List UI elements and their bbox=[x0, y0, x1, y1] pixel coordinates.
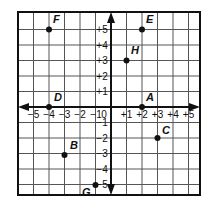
point-d bbox=[46, 104, 52, 110]
x-tick-label: +1 bbox=[121, 109, 133, 120]
point-f bbox=[46, 27, 52, 33]
coordinate-plane: −5 −4 −3 −2 −1 0 +1 +2 +3 +4 +5 +5 +4 +3… bbox=[0, 0, 211, 216]
point-a bbox=[139, 104, 145, 110]
y-tick-label: +4 bbox=[96, 40, 108, 51]
y-tick-label: +5 bbox=[96, 24, 108, 35]
y-tick-label: −4 bbox=[96, 164, 108, 175]
point-g bbox=[93, 182, 99, 188]
point-b bbox=[62, 152, 68, 158]
y-tick-label: −1 bbox=[96, 117, 108, 128]
point-label-f: F bbox=[53, 13, 60, 25]
point-label-h: H bbox=[131, 44, 140, 56]
point-e bbox=[139, 27, 145, 33]
arrow-down-icon bbox=[107, 184, 115, 195]
point-label-d: D bbox=[54, 91, 62, 103]
point-c bbox=[155, 135, 161, 141]
y-axis bbox=[107, 12, 115, 195]
grid bbox=[18, 12, 200, 195]
y-tick-label: +1 bbox=[96, 86, 108, 97]
y-tick-label: −3 bbox=[96, 148, 108, 159]
point-label-g: G bbox=[82, 186, 91, 198]
x-tick-label: +3 bbox=[152, 109, 164, 120]
x-tick-label: −4 bbox=[43, 109, 55, 120]
point-label-c: C bbox=[162, 124, 171, 136]
x-tick-label: −5 bbox=[28, 109, 40, 120]
x-tick-label: +4 bbox=[167, 109, 179, 120]
point-h bbox=[124, 58, 130, 64]
point-label-a: A bbox=[145, 91, 154, 103]
x-tick-label: −2 bbox=[74, 109, 86, 120]
x-tick-label: +2 bbox=[136, 109, 148, 120]
point-label-b: B bbox=[70, 139, 78, 151]
x-tick-label: −3 bbox=[59, 109, 71, 120]
x-tick-label: +5 bbox=[183, 109, 195, 120]
point-label-e: E bbox=[146, 13, 154, 25]
y-tick-label: −2 bbox=[96, 133, 108, 144]
y-tick-label: +2 bbox=[96, 71, 108, 82]
y-tick-label: +3 bbox=[96, 55, 108, 66]
arrow-up-icon bbox=[107, 12, 115, 23]
